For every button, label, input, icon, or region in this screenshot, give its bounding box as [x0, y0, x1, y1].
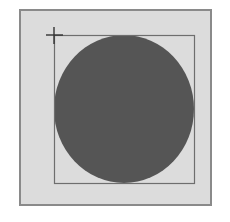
drawing-layer[interactable]	[0, 0, 230, 222]
crosshair-icon	[46, 27, 63, 44]
filled-ellipse[interactable]	[54, 35, 194, 183]
